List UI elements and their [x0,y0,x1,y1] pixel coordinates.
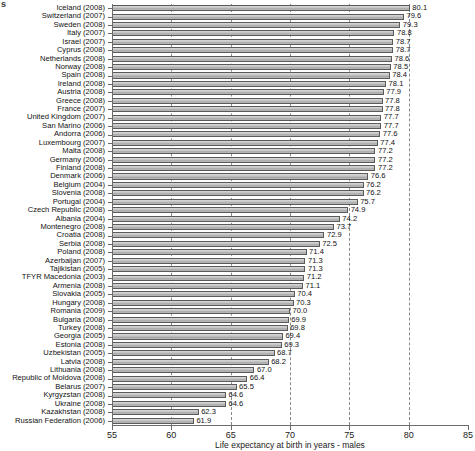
bar-row: Malta (2008)77.2 [0,147,475,155]
bar-row: Estonia (2008)69.3 [0,341,475,349]
bar [112,190,364,196]
bar-row: Serbia (2008)72.5 [0,240,475,248]
category-label: Armenia (2008) [0,282,105,290]
bar-row: Finland (2008)77.2 [0,164,475,172]
bar [112,308,290,314]
category-label: Romania (2009) [0,307,105,315]
bar [112,325,288,331]
bar-row: Republic of Moldova (2008)66.4 [0,374,475,382]
bar-value-label: 61.9 [196,417,211,425]
bar [112,106,383,112]
bar [112,148,375,154]
bar [112,350,275,356]
category-label: Switzerland (2007) [0,12,105,20]
category-label: Portugal (2004) [0,198,105,206]
category-label: Tajikistan (2005) [0,265,105,273]
category-label: Georgia (2005) [0,332,105,340]
category-label: Lithuania (2008) [0,366,105,374]
category-label: Ukraine (2008) [0,400,105,408]
category-label: Kyrgyzstan (2008) [0,391,105,399]
bar [112,22,400,28]
category-label: Malta (2008) [0,147,105,155]
category-label: Germany (2006) [0,156,105,164]
category-label: Belarus (2007) [0,383,105,391]
bar-row: Albania (2004)74.2 [0,215,475,223]
category-label: France (2007) [0,105,105,113]
bar [112,283,303,289]
bar-row: Georgia (2005)69.4 [0,332,475,340]
category-label: Israel (2007) [0,38,105,46]
category-label: Sweden (2008) [0,21,105,29]
bar-row: Andorra (2006)77.6 [0,130,475,138]
category-label: Croatia (2008) [0,231,105,239]
category-label: Albania (2004) [0,215,105,223]
category-label: Turkey (2008) [0,324,105,332]
bar [112,317,289,323]
bar-row: TFYR Macedonia (2003)71.2 [0,273,475,281]
bar [112,207,348,213]
bar-row: Belgium (2004)76.2 [0,181,475,189]
category-label: Cyprus (2008) [0,46,105,54]
category-label: United Kingdom (2007) [0,113,105,121]
category-label: Serbia (2008) [0,240,105,248]
bar-row: Montenegro (2008)73.7 [0,223,475,231]
bar [112,89,384,95]
bar [112,115,381,121]
bar-row: Poland (2008)71.4 [0,248,475,256]
bar [112,275,304,281]
bar [112,131,380,137]
bar [112,173,368,179]
bar-row: Lithuania (2008)67.0 [0,366,475,374]
bar-value-label: 64.6 [228,400,243,408]
category-label: Estonia (2008) [0,341,105,349]
life-expectancy-bar-chart: s Iceland (2008)80.1Switzerland (2007)79… [0,0,475,451]
y-axis-line [112,4,113,425]
bar [112,224,334,230]
category-label: Italy (2007) [0,29,105,37]
bar [112,72,390,78]
x-tick-label-65: 65 [226,430,236,440]
category-label: Slovakia (2005) [0,290,105,298]
bar-row: Spain (2008)78.4 [0,71,475,79]
bar [112,199,358,205]
category-label: Bulgaria (2008) [0,316,105,324]
bar [112,249,307,255]
x-tick-label-85: 85 [463,430,473,440]
category-label: Andorra (2006) [0,130,105,138]
category-label: Luxembourg (2007) [0,139,105,147]
category-label: Austria (2008) [0,88,105,96]
bar [112,300,294,306]
bar [112,333,283,339]
bar [112,39,393,45]
category-label: Republic of Moldova (2008) [0,374,105,382]
x-tick-label-70: 70 [285,430,295,440]
bar-row: San Marino (2006)77.7 [0,122,475,130]
bar [112,98,383,104]
bar-row: Denmark (2006)76.6 [0,172,475,180]
bar-value-label: 72.5 [322,240,337,248]
bar-row: Uzbekistan (2005)68.7 [0,349,475,357]
category-label: TFYR Macedonia (2003) [0,273,105,281]
x-tick-label-60: 60 [166,430,176,440]
bar-row: Luxembourg (2007)77.4 [0,139,475,147]
bar [112,418,194,424]
bar [112,14,404,20]
bar [112,401,226,407]
bar [112,376,247,382]
category-label: Czech Republic (2008) [0,206,105,214]
bar [112,157,375,163]
bar [112,123,381,129]
bar [112,216,340,222]
bar [112,359,269,365]
category-label: Hungary (2008) [0,299,105,307]
bar [112,81,386,87]
bar-row: Latvia (2008)68.2 [0,358,475,366]
bar-row: France (2007)77.8 [0,105,475,113]
bar [112,291,295,297]
bar [112,266,305,272]
category-label: Poland (2008) [0,248,105,256]
category-label: Greece (2008) [0,97,105,105]
bar-row: United Kingdom (2007)77.7 [0,113,475,121]
bar [112,342,282,348]
bar-row: Czech Republic (2008)74.9 [0,206,475,214]
